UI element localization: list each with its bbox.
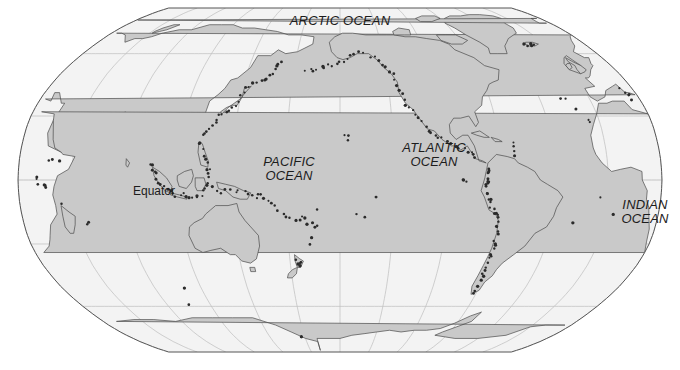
volcano-marker: [235, 105, 237, 107]
volcano-marker: [624, 92, 626, 94]
volcano-marker: [275, 64, 278, 67]
volcano-marker: [357, 50, 360, 53]
volcano-marker: [526, 45, 529, 48]
volcano-marker: [388, 70, 391, 73]
volcano-marker: [489, 253, 492, 256]
volcano-marker: [58, 159, 61, 162]
volcano-marker: [347, 58, 349, 60]
volcano-marker: [235, 191, 237, 193]
volcano-marker: [172, 192, 174, 194]
volcano-marker: [191, 197, 193, 199]
volcano-marker: [251, 81, 254, 84]
volcano-marker: [244, 86, 247, 89]
volcano-marker: [589, 121, 591, 123]
volcano-marker: [375, 196, 378, 199]
volcano-marker: [180, 194, 182, 196]
volcano-marker: [497, 232, 500, 235]
volcano-marker: [201, 195, 203, 197]
volcano-marker: [381, 64, 384, 67]
volcano-marker: [363, 216, 366, 219]
volcano-marker: [437, 137, 439, 139]
volcano-marker: [211, 124, 214, 127]
volcano-marker: [494, 242, 497, 245]
volcano-marker: [497, 230, 500, 233]
volcano-marker: [401, 92, 404, 95]
volcano-marker: [462, 178, 465, 181]
volcano-marker: [493, 247, 495, 249]
volcano-marker: [574, 107, 577, 110]
volcano-marker: [154, 170, 157, 173]
volcano-marker: [184, 195, 187, 198]
volcano-marker: [44, 184, 47, 187]
volcano-marker: [220, 113, 222, 115]
volcano-marker: [207, 176, 210, 179]
volcano-marker: [485, 266, 487, 268]
volcano-marker: [170, 189, 173, 192]
volcano-marker: [310, 236, 313, 239]
volcano-marker: [237, 101, 239, 103]
volcano-marker: [309, 243, 312, 246]
volcano-marker: [486, 180, 488, 182]
volcano-marker: [513, 154, 516, 157]
volcano-marker: [283, 213, 286, 216]
volcano-marker: [301, 215, 303, 217]
volcano-marker: [414, 114, 416, 116]
volcano-marker: [244, 190, 246, 192]
volcano-marker: [316, 208, 318, 210]
volcano-marker: [404, 104, 407, 107]
volcano-marker: [207, 161, 210, 164]
volcano-marker: [259, 193, 262, 196]
volcano-marker: [564, 98, 566, 100]
volcano-marker: [428, 130, 431, 133]
volcano-marker: [211, 185, 214, 188]
volcano-marker: [331, 65, 333, 67]
volcano-marker: [205, 184, 208, 187]
volcano-marker: [327, 63, 329, 65]
volcano-marker: [295, 258, 298, 261]
volcano-marker: [204, 158, 207, 161]
volcano-marker: [349, 54, 352, 57]
volcano-marker: [255, 81, 257, 83]
volcano-marker: [247, 193, 250, 196]
volcano-marker: [488, 198, 490, 200]
volcano-marker: [404, 99, 407, 102]
volcano-marker: [276, 209, 279, 212]
volcano-marker: [486, 192, 489, 195]
volcano-marker: [239, 94, 242, 97]
volcano-marker: [207, 172, 210, 175]
volcano-marker: [157, 182, 160, 185]
volcano-marker: [215, 121, 218, 124]
volcano-marker: [300, 335, 303, 338]
volcano-marker: [229, 188, 232, 191]
volcano-marker: [493, 208, 496, 211]
volcano-marker: [310, 68, 312, 70]
volcano-marker: [299, 218, 302, 221]
volcano-marker: [272, 73, 275, 76]
volcano-marker: [343, 134, 345, 136]
volcano-marker: [513, 150, 515, 152]
volcano-marker: [248, 86, 250, 88]
volcano-marker: [316, 225, 319, 228]
volcano-marker: [480, 279, 483, 282]
volcano-marker: [304, 70, 306, 72]
volcano-marker: [205, 130, 208, 133]
volcano-marker: [338, 60, 341, 63]
volcano-marker: [48, 159, 51, 162]
volcano-marker: [343, 61, 345, 63]
volcano-marker: [262, 197, 265, 200]
volcano-marker: [244, 91, 246, 93]
volcano-marker: [488, 257, 490, 259]
volcano-marker: [487, 261, 490, 264]
volcano-marker: [599, 196, 601, 198]
volcano-marker: [51, 158, 54, 161]
volcano-marker: [270, 202, 273, 205]
volcano-marker: [487, 168, 490, 171]
volcano-marker: [151, 169, 154, 172]
volcano-marker: [425, 125, 428, 128]
volcano-marker: [202, 148, 204, 150]
volcano-marker: [559, 97, 562, 100]
volcano-marker: [205, 168, 208, 171]
volcano-marker: [532, 43, 535, 46]
volcano-marker: [35, 176, 38, 179]
volcano-marker: [384, 65, 387, 68]
